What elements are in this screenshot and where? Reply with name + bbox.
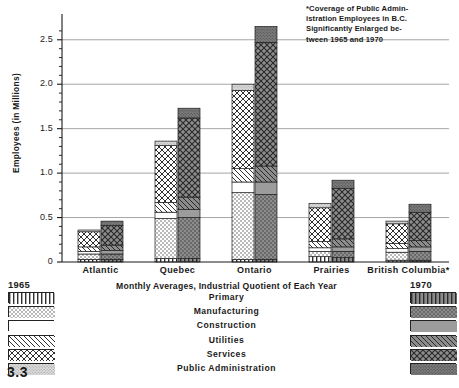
x-tick-label-british-columbia: British Columbia* [359,265,459,275]
chart-annotation-note: *Coverage of Public Admin- istration Emp… [306,4,450,45]
legend-year-1965: 1965 [8,279,30,290]
legend-label-manufacturing: Manufacturing [0,306,453,316]
figure-number: 3.3 [7,364,28,380]
chart-bars [78,26,431,262]
y-tick-label: 1.5 [23,123,53,133]
legend-year-1970: 1970 [410,279,432,290]
legend-label-primary: Primary [0,292,453,302]
y-tick-label: 1.0 [23,167,53,177]
y-tick-label: 2.5 [23,34,53,44]
legend-label-public-administration: Public Administration [0,363,453,373]
y-tick-label: 2.0 [23,78,53,88]
y-tick-label: 0 [23,256,53,266]
note-line-4: tween 1965 and 1970 [306,35,450,45]
legend-label-services: Services [0,349,453,359]
legend-label-utilities: Utilities [0,335,453,345]
legend-label-construction: Construction [0,320,453,330]
note-line-2: istration Employees in B.C. [306,14,450,24]
note-line-1: *Coverage of Public Admin- [306,4,450,14]
note-line-3: Significantly Enlarged be- [306,24,450,34]
y-tick-label: 0.5 [23,212,53,222]
y-axis-title: Employees (in Millions) [11,43,21,203]
chart-subtitle: Monthly Averages, Industrial Quotient of… [0,281,453,291]
